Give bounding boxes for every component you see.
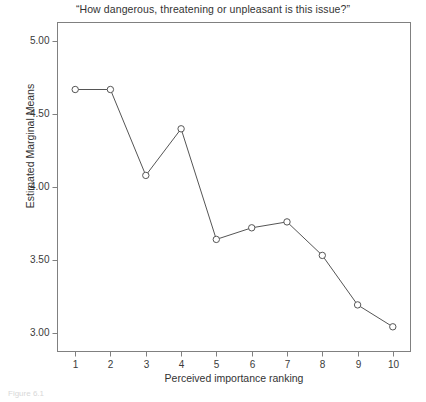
y-tick-label: 3.00 bbox=[10, 327, 50, 338]
x-tick-label: 3 bbox=[135, 359, 159, 370]
data-point-marker bbox=[284, 219, 290, 225]
y-tick-label: 4.00 bbox=[10, 181, 50, 192]
x-tick-label: 2 bbox=[99, 359, 123, 370]
x-tick-label: 7 bbox=[276, 359, 300, 370]
y-axis-ticks bbox=[53, 42, 58, 334]
y-tick-label: 5.00 bbox=[10, 35, 50, 46]
data-point-marker bbox=[143, 172, 149, 178]
data-point-marker bbox=[178, 126, 184, 132]
x-tick-label: 5 bbox=[205, 359, 229, 370]
x-tick-label: 1 bbox=[64, 359, 88, 370]
data-point-marker bbox=[107, 86, 113, 92]
figure-root: “How dangerous, threatening or unpleasan… bbox=[0, 0, 426, 402]
x-tick-label: 4 bbox=[170, 359, 194, 370]
x-tick-label: 6 bbox=[241, 359, 265, 370]
data-point-marker bbox=[213, 236, 219, 242]
figure-caption: Figure 6.1 bbox=[8, 389, 44, 398]
x-tick-label: 8 bbox=[311, 359, 335, 370]
data-point-marker bbox=[390, 324, 396, 330]
plot-area bbox=[0, 0, 426, 402]
data-point-marker bbox=[354, 302, 360, 308]
x-tick-label: 10 bbox=[382, 359, 406, 370]
y-tick-label: 3.50 bbox=[10, 254, 50, 265]
data-point-marker bbox=[72, 86, 78, 92]
data-point-marker bbox=[319, 252, 325, 258]
y-tick-label: 4.50 bbox=[10, 108, 50, 119]
x-axis-ticks bbox=[76, 352, 394, 357]
data-point-marker bbox=[249, 225, 255, 231]
x-tick-label: 9 bbox=[347, 359, 371, 370]
